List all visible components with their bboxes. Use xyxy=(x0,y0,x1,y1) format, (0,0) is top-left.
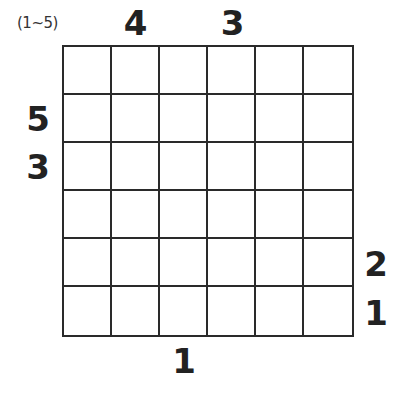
grid-cell[interactable] xyxy=(256,191,304,239)
clue-left: 3 xyxy=(18,150,58,184)
grid-cell[interactable] xyxy=(64,47,112,95)
clue-right: 2 xyxy=(356,247,396,281)
grid-cell[interactable] xyxy=(304,47,352,95)
grid-cell[interactable] xyxy=(64,191,112,239)
grid-cell[interactable] xyxy=(304,239,352,287)
grid-cell[interactable] xyxy=(64,239,112,287)
grid-cell[interactable] xyxy=(64,143,112,191)
clue-top: 3 xyxy=(209,6,257,40)
grid-cell[interactable] xyxy=(160,287,208,335)
grid-cell[interactable] xyxy=(208,239,256,287)
puzzle-grid xyxy=(62,45,354,337)
grid-cell[interactable] xyxy=(112,239,160,287)
grid-cell[interactable] xyxy=(304,95,352,143)
grid-cell[interactable] xyxy=(208,47,256,95)
grid-cell[interactable] xyxy=(112,95,160,143)
grid-cell[interactable] xyxy=(160,191,208,239)
grid-cell[interactable] xyxy=(256,95,304,143)
grid-cell[interactable] xyxy=(256,287,304,335)
grid-cell[interactable] xyxy=(160,239,208,287)
number-range-label: (1~5) xyxy=(17,14,58,32)
grid-cell[interactable] xyxy=(64,287,112,335)
grid-cell[interactable] xyxy=(160,143,208,191)
grid-cell[interactable] xyxy=(304,143,352,191)
clue-bottom: 1 xyxy=(160,344,208,378)
clue-top: 4 xyxy=(112,6,160,40)
grid-cell[interactable] xyxy=(112,191,160,239)
grid-cell[interactable] xyxy=(304,287,352,335)
grid-cell[interactable] xyxy=(208,143,256,191)
grid-cell[interactable] xyxy=(160,95,208,143)
clue-left: 5 xyxy=(18,102,58,136)
grid-cell[interactable] xyxy=(64,95,112,143)
grid-cell[interactable] xyxy=(304,191,352,239)
grid-cell[interactable] xyxy=(256,239,304,287)
grid-cell[interactable] xyxy=(112,287,160,335)
grid-cell[interactable] xyxy=(112,143,160,191)
grid-cell[interactable] xyxy=(208,191,256,239)
grid-cell[interactable] xyxy=(208,95,256,143)
grid-cell[interactable] xyxy=(112,47,160,95)
grid-cell[interactable] xyxy=(160,47,208,95)
grid-cell[interactable] xyxy=(256,143,304,191)
grid-cell[interactable] xyxy=(256,47,304,95)
grid-cell[interactable] xyxy=(208,287,256,335)
clue-right: 1 xyxy=(356,296,396,330)
